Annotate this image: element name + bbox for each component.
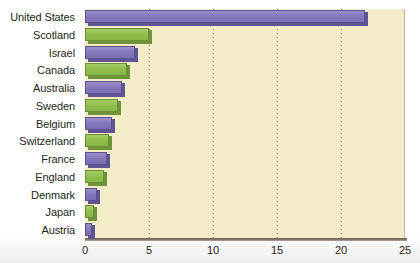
bar-row: [85, 187, 404, 203]
bar[interactable]: [85, 99, 118, 112]
plot-area: [85, 9, 405, 238]
bar-side-cap: [149, 30, 152, 43]
bar-face: [85, 170, 104, 183]
bar-row: [85, 80, 404, 96]
bar-series: [85, 9, 404, 238]
bar-row: [85, 9, 404, 25]
category-label: Switzerland: [0, 133, 80, 149]
bar-face: [85, 223, 92, 236]
bar[interactable]: [85, 134, 109, 147]
bar-face: [85, 81, 122, 94]
bar[interactable]: [85, 223, 92, 236]
category-label: England: [0, 169, 80, 185]
bar-face: [85, 46, 135, 59]
category-label: United States: [0, 9, 80, 25]
bar-face: [85, 205, 94, 218]
category-label: Denmark: [0, 187, 80, 203]
bar-bottom-edge: [88, 76, 130, 79]
x-tick-label: 0: [82, 243, 88, 257]
bar-side-cap: [127, 65, 130, 78]
bar-bottom-edge: [88, 94, 125, 97]
bar[interactable]: [85, 63, 127, 76]
bar-row: [85, 222, 404, 238]
bar-face: [85, 188, 97, 201]
bar-face: [85, 99, 118, 112]
bar[interactable]: [85, 205, 94, 218]
bar[interactable]: [85, 170, 104, 183]
category-label: Belgium: [0, 116, 80, 132]
category-label: Sweden: [0, 98, 80, 114]
bar[interactable]: [85, 152, 107, 165]
bar-bottom-edge: [88, 41, 152, 44]
category-label: France: [0, 151, 80, 167]
bar-face: [85, 63, 127, 76]
x-tick-label: 5: [146, 243, 152, 257]
bar-side-cap: [104, 172, 107, 185]
bar-side-cap: [107, 154, 110, 167]
bar-side-cap: [122, 83, 125, 96]
bar-side-cap: [112, 119, 115, 132]
bar-row: [85, 151, 404, 167]
bar-face: [85, 10, 365, 23]
bar-row: [85, 169, 404, 185]
bar-face: [85, 152, 107, 165]
bar-bottom-edge: [88, 130, 115, 133]
bar-side-cap: [109, 136, 112, 149]
bar-row: [85, 62, 404, 78]
x-tick-label: 15: [271, 243, 283, 257]
x-axis-line: [85, 238, 407, 241]
bar-row: [85, 133, 404, 149]
x-tick-label: 25: [399, 243, 411, 257]
bar-side-cap: [365, 12, 368, 25]
chart-figure: United States Scotland Israel Canada Aus…: [0, 0, 420, 263]
category-label: Israel: [0, 45, 80, 61]
bar-bottom-edge: [88, 59, 138, 62]
category-label: Australia: [0, 80, 80, 96]
bar-row: [85, 98, 404, 114]
bar-row: [85, 45, 404, 61]
x-tick-label: 10: [207, 243, 219, 257]
bar[interactable]: [85, 188, 97, 201]
category-label: Japan: [0, 204, 80, 220]
category-label: Austria: [0, 222, 80, 238]
bar-side-cap: [97, 190, 100, 203]
bar-face: [85, 28, 149, 41]
x-axis-tick-labels: 0510152025: [0, 243, 420, 261]
bar[interactable]: [85, 10, 365, 23]
bar[interactable]: [85, 81, 122, 94]
bar-side-cap: [94, 207, 97, 220]
bar-row: [85, 27, 404, 43]
bar-bottom-edge: [88, 23, 368, 26]
category-axis-labels: United States Scotland Israel Canada Aus…: [0, 9, 80, 238]
bar[interactable]: [85, 28, 149, 41]
bar-bottom-edge: [88, 112, 121, 115]
bar-side-cap: [135, 48, 138, 61]
category-label: Canada: [0, 62, 80, 78]
bar-side-cap: [118, 101, 121, 114]
bar-face: [85, 117, 112, 130]
bar-row: [85, 204, 404, 220]
bar[interactable]: [85, 46, 135, 59]
bar-row: [85, 116, 404, 132]
category-label: Scotland: [0, 27, 80, 43]
bar[interactable]: [85, 117, 112, 130]
bar-side-cap: [92, 225, 95, 238]
bar-face: [85, 134, 109, 147]
x-tick-label: 20: [335, 243, 347, 257]
